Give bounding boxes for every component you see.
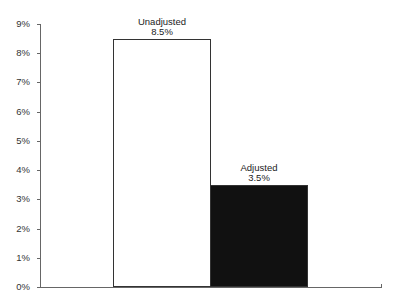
y-tick-label: 6% bbox=[2, 106, 30, 117]
y-tick-label: 8% bbox=[2, 47, 30, 58]
y-tick-mark bbox=[37, 141, 41, 142]
bar-value-label: 8.5% bbox=[113, 27, 211, 37]
x-axis bbox=[40, 287, 382, 288]
y-tick-mark bbox=[37, 82, 41, 83]
y-tick-label: 4% bbox=[2, 164, 30, 175]
y-tick-mark bbox=[37, 199, 41, 200]
bar-label-adjusted: Adjusted3.5% bbox=[210, 163, 308, 183]
bar-chart: 0%1%2%3%4%5%6%7%8%9% Unadjusted8.5%Adjus… bbox=[0, 0, 401, 303]
y-tick-label: 7% bbox=[2, 76, 30, 87]
y-tick-label: 9% bbox=[2, 18, 30, 29]
y-tick-mark bbox=[37, 229, 41, 230]
y-axis bbox=[40, 24, 41, 287]
bar-label-unadjusted: Unadjusted8.5% bbox=[113, 17, 211, 37]
y-tick-label: 5% bbox=[2, 135, 30, 146]
y-tick-label: 3% bbox=[2, 193, 30, 204]
x-axis-end-tick bbox=[381, 284, 382, 288]
y-tick-mark bbox=[37, 170, 41, 171]
bar-unadjusted bbox=[113, 39, 211, 287]
y-tick-mark bbox=[37, 112, 41, 113]
y-tick-mark bbox=[37, 53, 41, 54]
y-tick-label: 0% bbox=[2, 281, 30, 292]
bar-adjusted bbox=[210, 185, 308, 287]
y-tick-label: 2% bbox=[2, 223, 30, 234]
y-tick-mark bbox=[37, 24, 41, 25]
y-tick-mark bbox=[37, 258, 41, 259]
y-tick-mark bbox=[37, 287, 41, 288]
bar-value-label: 3.5% bbox=[210, 173, 308, 183]
y-tick-label: 1% bbox=[2, 252, 30, 263]
